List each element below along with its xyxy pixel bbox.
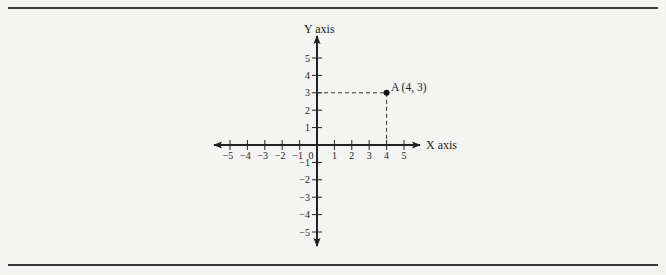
point-a (384, 90, 390, 96)
svg-text:−3: −3 (257, 150, 268, 161)
svg-text:4: 4 (305, 70, 310, 81)
svg-text:4: 4 (384, 150, 389, 161)
svg-text:−5: −5 (299, 227, 310, 238)
svg-text:1: 1 (305, 122, 310, 133)
svg-text:2: 2 (349, 150, 354, 161)
point-a-label: A (4, 3) (391, 81, 427, 94)
svg-text:2: 2 (305, 105, 310, 116)
svg-text:−3: −3 (299, 192, 310, 203)
svg-text:−4: −4 (299, 209, 310, 220)
coordinate-plane: Y axis X axis A (4, 3) −5 −4 −3 −2 −1 0 … (0, 0, 666, 275)
svg-text:3: 3 (305, 87, 310, 98)
svg-text:3: 3 (367, 150, 372, 161)
svg-text:−5: −5 (223, 150, 234, 161)
svg-text:−1: −1 (299, 157, 310, 168)
svg-text:−2: −2 (299, 174, 310, 185)
x-axis-label: X axis (426, 138, 457, 152)
svg-text:5: 5 (402, 150, 407, 161)
y-axis-label: Y axis (304, 22, 335, 36)
svg-text:1: 1 (332, 150, 337, 161)
x-tick-labels: −5 −4 −3 −2 −1 0 1 2 3 4 5 (223, 150, 407, 161)
svg-text:−2: −2 (275, 150, 286, 161)
svg-text:5: 5 (305, 53, 310, 64)
svg-text:−4: −4 (240, 150, 251, 161)
